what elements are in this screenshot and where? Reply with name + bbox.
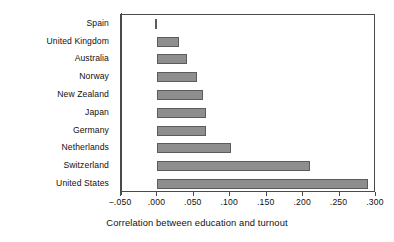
category-label: Netherlands [0, 142, 115, 152]
bar-row [121, 33, 374, 51]
x-axis-title: Correlation between education and turnou… [0, 217, 394, 229]
bar [157, 126, 206, 136]
x-tick-label: −.050 [109, 197, 132, 207]
bar [157, 108, 206, 118]
x-tick-mark [193, 192, 194, 196]
x-tick-label: .000 [148, 197, 166, 207]
x-tick-mark [156, 192, 157, 196]
bar-chart: SpainUnited KingdomAustraliaNorwayNew Ze… [0, 0, 394, 242]
x-tick-mark [302, 192, 303, 196]
x-tick-label: .100 [221, 197, 239, 207]
category-label: Japan [0, 107, 115, 117]
bar [157, 90, 202, 100]
plot-area [120, 14, 375, 192]
bar [157, 161, 309, 171]
category-label: United Kingdom [0, 36, 115, 46]
bars-layer [121, 15, 374, 191]
x-tick-mark [375, 192, 376, 196]
bar [155, 19, 158, 29]
x-tick-mark [339, 192, 340, 196]
bar-row [121, 140, 374, 158]
bar [157, 37, 179, 47]
category-label: New Zealand [0, 89, 115, 99]
bar-row [121, 15, 374, 33]
bar [157, 143, 231, 153]
category-label: Australia [0, 53, 115, 63]
bar-row [121, 175, 374, 193]
x-tick-label: .150 [257, 197, 275, 207]
x-tick-label: .250 [330, 197, 348, 207]
bar-row [121, 86, 374, 104]
x-tick-label: .050 [184, 197, 202, 207]
category-label: Switzerland [0, 160, 115, 170]
x-tick-mark [120, 192, 121, 196]
bar-row [121, 68, 374, 86]
bar [157, 72, 196, 82]
category-label: United States [0, 178, 115, 188]
bar-row [121, 122, 374, 140]
bar-row [121, 157, 374, 175]
x-tick-mark [266, 192, 267, 196]
bar-row [121, 51, 374, 69]
bar-row [121, 104, 374, 122]
category-label: Germany [0, 125, 115, 135]
x-tick-label: .200 [293, 197, 311, 207]
x-axis: −.050.000.050.100.150.200.250.300 [120, 192, 375, 216]
x-tick-label: .300 [366, 197, 384, 207]
x-tick-mark [229, 192, 230, 196]
category-axis: SpainUnited KingdomAustraliaNorwayNew Ze… [0, 14, 115, 192]
bar [157, 179, 368, 189]
bar [157, 54, 186, 64]
category-label: Spain [0, 18, 115, 28]
category-label: Norway [0, 71, 115, 81]
